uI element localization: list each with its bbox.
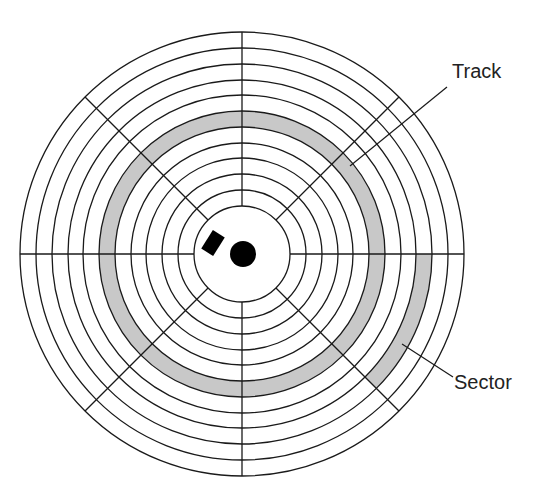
- track-label: Track: [452, 61, 501, 81]
- sector-divider-line: [85, 97, 208, 220]
- track-leader-line: [350, 87, 447, 166]
- index-hole-icon: [201, 230, 225, 256]
- disk-diagram: Track Sector: [0, 0, 536, 503]
- sector-divider-line: [85, 288, 208, 411]
- sector-divider-line: [276, 97, 399, 220]
- sector-leader-line: [402, 344, 453, 377]
- spindle-hub: [201, 230, 256, 267]
- sector-label: Sector: [454, 372, 512, 392]
- sector-divider-line: [276, 288, 399, 411]
- spindle-hole-icon: [230, 241, 256, 267]
